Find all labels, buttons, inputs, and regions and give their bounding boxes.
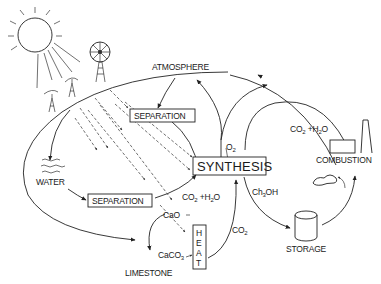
storage-label: STORAGE bbox=[286, 244, 327, 254]
power-pylon-icon bbox=[44, 78, 78, 112]
caco3-label: CaCO3 bbox=[158, 250, 185, 261]
atmosphere-label: ATMOSPHERE bbox=[152, 62, 209, 72]
svg-text:SYNTHESIS: SYNTHESIS bbox=[197, 159, 273, 174]
ch3oh-label: Ch3OH bbox=[252, 187, 278, 198]
synthesis-node: SYNTHESIS bbox=[193, 157, 273, 175]
co2-h2o-separation-label: CO2 +H2O bbox=[182, 192, 221, 203]
water-label: WATER bbox=[36, 177, 65, 187]
car-icon bbox=[313, 175, 337, 185]
limestone-label: LIMESTONE bbox=[125, 268, 173, 278]
combustion-label: COMBUSTION bbox=[316, 155, 372, 165]
methanol-cycle-diagram: ATMOSPHERE SEPARATION O2 CO2 +H2O COMBUS… bbox=[0, 0, 381, 284]
separation-bottom-node: SEPARATION bbox=[88, 194, 152, 207]
svg-text:SEPARATION: SEPARATION bbox=[92, 196, 144, 206]
co2-heat-label: CO2 bbox=[232, 225, 248, 236]
svg-text:A: A bbox=[196, 248, 202, 258]
svg-text:T: T bbox=[196, 258, 201, 268]
separation-top-node: SEPARATION bbox=[130, 109, 195, 122]
svg-text:SEPARATION: SEPARATION bbox=[134, 111, 186, 121]
svg-text:H: H bbox=[196, 228, 202, 238]
o2-label: O2 bbox=[226, 142, 236, 153]
svg-text:E: E bbox=[196, 238, 202, 248]
cao-label-text: CaO bbox=[163, 210, 180, 220]
water-waves-icon bbox=[41, 159, 65, 173]
sun-icon bbox=[8, 7, 80, 88]
windmill-icon bbox=[90, 42, 110, 82]
heat-node: H E A T bbox=[193, 225, 206, 269]
co2-h2o-combustion-label: CO2 +H2O bbox=[290, 124, 329, 135]
smokestack-icon bbox=[330, 120, 372, 153]
storage-tank-icon bbox=[295, 211, 317, 241]
